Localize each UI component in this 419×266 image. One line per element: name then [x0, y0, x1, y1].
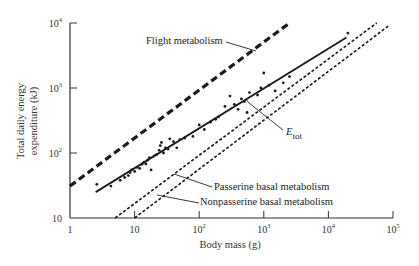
- y-axis-title-line2: expenditure (kJ): [28, 86, 40, 155]
- x-tick-label: 10: [130, 224, 140, 235]
- data-point: [259, 87, 262, 90]
- y-tick-label: 104: [49, 16, 63, 29]
- data-point: [162, 152, 165, 155]
- data-point: [148, 156, 151, 159]
- data-point: [127, 174, 130, 177]
- data-point: [159, 144, 162, 147]
- data-point: [119, 179, 122, 182]
- data-point: [168, 137, 171, 140]
- passerine-label: Passerine basal metabolism: [214, 181, 329, 192]
- data-point: [198, 124, 201, 127]
- passerine-leader-line: [174, 174, 212, 187]
- y-tick-label: 103: [49, 81, 62, 94]
- data-point: [95, 183, 98, 186]
- data-point: [274, 90, 277, 93]
- data-point: [237, 108, 240, 111]
- series-e-tot: [96, 37, 347, 192]
- data-point: [288, 75, 291, 78]
- data-point: [133, 170, 136, 173]
- x-axis-title: Body mass (g): [199, 239, 261, 251]
- scatter-points: [95, 32, 349, 188]
- x-tick-label: 105: [386, 222, 399, 235]
- data-point: [153, 155, 156, 158]
- data-point: [158, 149, 161, 152]
- data-point: [209, 121, 212, 124]
- x-tick-label: 1: [68, 224, 73, 235]
- y-tick-label: 102: [49, 146, 62, 159]
- data-point: [229, 95, 232, 98]
- data-point: [141, 163, 144, 166]
- y-tick-label: 10: [52, 213, 62, 224]
- data-point: [192, 135, 195, 138]
- flight-leader-line: [226, 42, 256, 51]
- data-point: [130, 168, 133, 171]
- data-point: [164, 146, 167, 149]
- data-point: [167, 148, 170, 151]
- data-point: [217, 115, 220, 118]
- x-tick-label: 103: [257, 222, 270, 235]
- data-point: [243, 100, 246, 103]
- data-point: [146, 159, 149, 162]
- data-point: [145, 162, 148, 165]
- nonpasserine-leader-line: [157, 195, 199, 203]
- data-point: [175, 146, 178, 149]
- x-tick-label: 104: [322, 222, 336, 235]
- data-point: [268, 84, 271, 87]
- etot-leader-tick: [246, 99, 249, 103]
- data-point: [160, 141, 163, 144]
- data-point: [183, 137, 186, 140]
- y-axis-title-line1: Total daily energy: [15, 82, 26, 159]
- data-point: [240, 97, 243, 100]
- flight-metabolism-label: Flight metabolism: [146, 35, 223, 46]
- data-point: [136, 166, 139, 169]
- data-point: [172, 140, 175, 143]
- y-ticks: 10102103104: [49, 16, 77, 224]
- data-point: [214, 118, 217, 121]
- data-point: [138, 167, 141, 170]
- data-point: [248, 91, 251, 94]
- etot-label: Etot: [285, 126, 302, 141]
- data-point: [155, 153, 158, 156]
- data-point: [282, 81, 285, 84]
- data-point: [256, 94, 259, 97]
- x-tick-label: 102: [193, 222, 206, 235]
- nonpasserine-label: Nonpasserine basal metabolism: [200, 196, 333, 207]
- data-point: [203, 128, 206, 131]
- log-log-chart: 10102103104 110102103104105 Total daily …: [0, 0, 419, 266]
- data-point: [123, 176, 126, 179]
- data-point: [129, 171, 132, 174]
- x-ticks: 110102103104105: [68, 211, 400, 235]
- series-flight-metabolism: [70, 23, 290, 186]
- data-point: [224, 105, 227, 108]
- data-point: [246, 111, 249, 114]
- etot-leader-line: [249, 103, 283, 130]
- data-point: [110, 185, 113, 188]
- data-point: [346, 32, 349, 35]
- data-point: [178, 138, 181, 141]
- data-point: [233, 103, 236, 106]
- data-point: [262, 72, 265, 75]
- data-point: [150, 168, 153, 171]
